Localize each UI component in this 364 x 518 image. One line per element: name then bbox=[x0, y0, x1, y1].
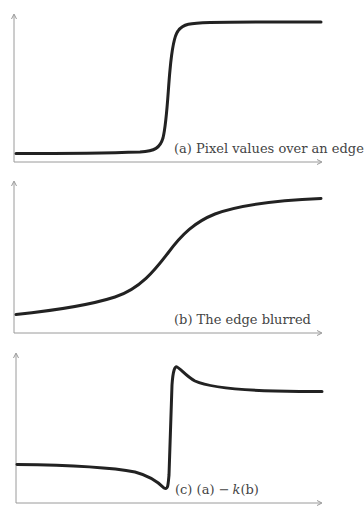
panel-b-curve bbox=[16, 199, 321, 315]
panel-c-caption-b: (b) bbox=[240, 482, 258, 497]
panel-a-caption-label: (a) bbox=[174, 141, 192, 156]
panel-b-caption: (b) The edge blurred bbox=[174, 312, 311, 327]
panel-c-caption-a: (a) bbox=[197, 482, 215, 497]
panel-c-caption-minus: − bbox=[219, 482, 230, 497]
panel-b-caption-label: (b) bbox=[174, 312, 192, 327]
panel-a-curve bbox=[16, 22, 321, 154]
panel-a-caption: (a) Pixel values over an edge bbox=[174, 141, 364, 156]
panel-c-curve bbox=[17, 367, 322, 489]
panel-c-caption: (c) (a) −k(b) bbox=[175, 482, 259, 497]
panel-b-caption-text: The edge blurred bbox=[197, 312, 311, 327]
panel-c-caption-label: (c) bbox=[175, 482, 192, 497]
panel-a-caption-text: Pixel values over an edge bbox=[196, 141, 364, 156]
